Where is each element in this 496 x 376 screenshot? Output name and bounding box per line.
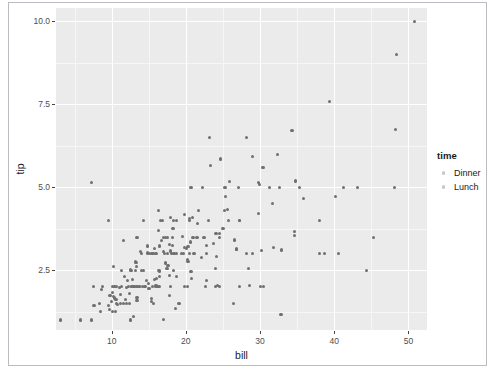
data-point xyxy=(251,252,254,255)
data-point xyxy=(99,310,102,313)
data-point xyxy=(79,318,82,321)
gridline-horizontal-major xyxy=(56,21,427,22)
x-tick-label: 50 xyxy=(404,336,413,346)
data-point xyxy=(395,53,398,56)
x-tick-label: 20 xyxy=(181,336,190,346)
legend-point-icon xyxy=(442,185,445,188)
data-point xyxy=(129,318,132,321)
data-point xyxy=(276,153,279,156)
data-point xyxy=(251,155,254,158)
data-point xyxy=(157,209,160,212)
data-point xyxy=(120,285,123,288)
data-point xyxy=(90,181,93,184)
x-tick-mark xyxy=(112,331,113,334)
data-point xyxy=(328,100,331,103)
data-point xyxy=(245,252,248,255)
data-point xyxy=(92,285,95,288)
data-point xyxy=(130,269,133,272)
data-point xyxy=(120,269,123,272)
data-point xyxy=(140,252,143,255)
data-point xyxy=(131,278,134,281)
legend-title: time xyxy=(437,150,481,161)
data-point xyxy=(393,186,396,189)
data-point xyxy=(334,195,337,198)
data-point xyxy=(290,129,293,132)
data-point xyxy=(413,20,416,23)
data-point xyxy=(166,264,169,267)
x-tick-mark xyxy=(334,331,335,334)
y-tick-mark xyxy=(52,21,55,22)
data-point xyxy=(191,216,194,219)
x-tick-label: 30 xyxy=(255,336,264,346)
data-point xyxy=(100,288,103,291)
data-point xyxy=(114,310,117,313)
gridline-vertical-minor xyxy=(297,8,298,330)
y-axis-title: tip xyxy=(14,163,26,174)
data-point xyxy=(183,213,186,216)
data-point xyxy=(214,285,217,288)
gridline-vertical-major xyxy=(408,8,409,330)
data-point xyxy=(223,209,226,212)
plot-panel xyxy=(56,8,427,330)
data-point xyxy=(221,227,224,230)
data-point xyxy=(166,252,169,255)
data-point xyxy=(158,244,161,247)
data-point xyxy=(235,247,238,250)
data-point xyxy=(318,219,321,222)
data-point xyxy=(262,285,265,288)
data-point xyxy=(272,246,275,249)
legend: time DinnerLunch xyxy=(437,150,481,194)
y-tick-label: 10.0 xyxy=(33,16,50,26)
data-point xyxy=(152,302,155,305)
x-tick-mark xyxy=(186,331,187,334)
data-point xyxy=(168,274,171,277)
legend-item-label: Lunch xyxy=(454,182,479,192)
data-point xyxy=(201,186,204,189)
data-point xyxy=(219,157,222,160)
data-point xyxy=(128,302,131,305)
data-point xyxy=(151,285,154,288)
data-point xyxy=(200,256,203,259)
data-point xyxy=(207,219,210,222)
data-point xyxy=(202,236,205,239)
data-point xyxy=(323,252,326,255)
data-point xyxy=(177,302,180,305)
data-point xyxy=(188,252,191,255)
data-point xyxy=(365,269,368,272)
data-point xyxy=(175,252,178,255)
data-point xyxy=(175,275,178,278)
data-point xyxy=(123,275,126,278)
data-point xyxy=(119,293,122,296)
data-point xyxy=(162,318,165,321)
data-point xyxy=(59,318,62,321)
data-point xyxy=(166,236,169,239)
data-point xyxy=(247,267,250,270)
data-point xyxy=(145,279,148,282)
data-point xyxy=(197,209,200,212)
data-point xyxy=(215,255,218,258)
data-point xyxy=(171,236,174,239)
data-point xyxy=(394,128,397,131)
legend-point-icon xyxy=(442,171,445,174)
data-point xyxy=(238,219,241,222)
scatter-plot-figure: 1020304050 2.55.07.510.0 bill tip time D… xyxy=(0,0,496,376)
data-point xyxy=(142,219,145,222)
data-point xyxy=(132,315,135,318)
data-point xyxy=(134,269,137,272)
legend-items: DinnerLunch xyxy=(437,166,481,194)
data-point xyxy=(232,302,235,305)
data-point xyxy=(164,261,167,264)
data-point xyxy=(280,248,283,251)
gridline-horizontal-major xyxy=(56,104,427,105)
gridline-vertical-minor xyxy=(75,8,76,330)
data-point xyxy=(98,302,101,305)
data-point xyxy=(172,269,175,272)
legend-item: Lunch xyxy=(437,180,481,194)
data-point xyxy=(227,219,230,222)
data-point xyxy=(196,222,199,225)
y-tick-label: 2.5 xyxy=(38,265,50,275)
data-point xyxy=(209,164,212,167)
data-point xyxy=(337,252,340,255)
data-point xyxy=(112,265,115,268)
data-point xyxy=(218,232,221,235)
